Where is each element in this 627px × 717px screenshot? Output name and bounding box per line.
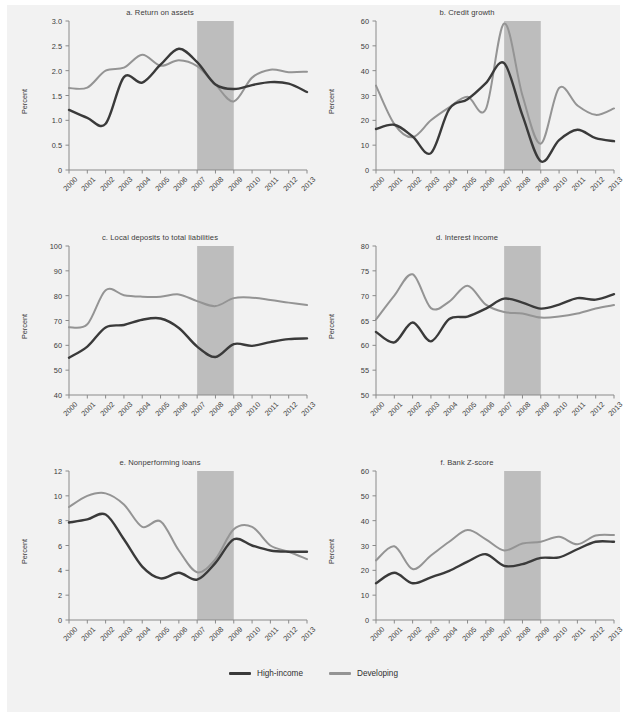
axis-spines-c: [69, 246, 307, 395]
series-line-developing-d: [376, 274, 614, 319]
y-tick-label: 60: [314, 341, 369, 350]
series-line-developing-a: [69, 55, 307, 102]
y-tick-label: 10: [314, 141, 369, 150]
y-tick-label: 0: [314, 166, 369, 175]
y-tick-label: 2.5: [7, 41, 62, 50]
series-line-high-income-c: [69, 318, 307, 358]
y-tick-label: 100: [7, 242, 62, 251]
y-tick-label: 12: [7, 467, 62, 476]
y-tick-label: 2.0: [7, 66, 62, 75]
y-tick-label: 50: [314, 491, 369, 500]
y-tick-label: 60: [314, 467, 369, 476]
chart-panel-a: a. Return on assetsPercent00.51.01.52.02…: [7, 5, 313, 223]
series-line-high-income-a: [69, 49, 307, 126]
y-tick-label: 4: [7, 566, 62, 575]
legend-swatch-icon: [229, 672, 251, 675]
y-tick-label: 1.5: [7, 91, 62, 100]
y-tick-label: 90: [7, 266, 62, 275]
legend-swatch-icon: [329, 672, 351, 675]
panel-grid: a. Return on assetsPercent00.51.01.52.02…: [7, 5, 620, 660]
recession-band-a: [197, 21, 234, 170]
y-tick-label: 50: [314, 391, 369, 400]
y-tick-label: 40: [314, 66, 369, 75]
y-tick-label: 20: [314, 116, 369, 125]
y-tick-label: 0: [7, 166, 62, 175]
axis-spines-d: [376, 246, 614, 395]
axis-spines-a: [69, 21, 307, 170]
legend-item-developing: Developing: [329, 669, 398, 678]
series-line-developing-c: [69, 289, 307, 328]
y-tick-label: 40: [314, 516, 369, 525]
figure-page: a. Return on assetsPercent00.51.01.52.02…: [7, 5, 620, 712]
y-tick-label: 65: [314, 316, 369, 325]
y-tick-label: 70: [7, 316, 62, 325]
y-tick-label: 20: [314, 566, 369, 575]
y-tick-label: 0: [7, 616, 62, 625]
figure-legend: High-incomeDeveloping: [7, 669, 620, 678]
series-line-developing-e: [69, 493, 307, 573]
y-tick-label: 8: [7, 516, 62, 525]
y-tick-label: 40: [7, 391, 62, 400]
chart-panel-e: e. Nonperforming loansPercent02468101220…: [7, 455, 313, 673]
chart-panel-f: f. Bank Z-scorePercent010203040506020002…: [314, 455, 620, 673]
y-tick-label: 55: [314, 366, 369, 375]
series-line-developing-b: [376, 23, 614, 143]
legend-label: Developing: [357, 669, 398, 678]
y-tick-label: 60: [314, 17, 369, 26]
legend-item-high-income: High-income: [229, 669, 303, 678]
chart-panel-c: c. Local deposits to total liabilitiesPe…: [7, 230, 313, 448]
y-tick-label: 10: [314, 591, 369, 600]
y-tick-label: 60: [7, 341, 62, 350]
series-line-high-income-f: [376, 541, 614, 583]
y-tick-label: 75: [314, 266, 369, 275]
y-tick-label: 3.0: [7, 17, 62, 26]
y-tick-label: 80: [7, 291, 62, 300]
y-tick-label: 30: [314, 91, 369, 100]
y-tick-label: 6: [7, 541, 62, 550]
y-tick-label: 10: [7, 491, 62, 500]
legend-label: High-income: [257, 669, 303, 678]
recession-band-d: [504, 246, 541, 395]
chart-panel-b: b. Credit growthPercent01020304050602000…: [314, 5, 620, 223]
series-line-high-income-d: [376, 294, 614, 342]
axis-spines-b: [376, 21, 614, 170]
y-tick-label: 50: [314, 41, 369, 50]
y-tick-label: 0.5: [7, 141, 62, 150]
chart-panel-d: d. Interest incomePercent505560657075802…: [314, 230, 620, 448]
y-tick-label: 2: [7, 591, 62, 600]
y-tick-label: 30: [314, 541, 369, 550]
recession-band-f: [504, 471, 541, 620]
y-tick-label: 80: [314, 242, 369, 251]
y-tick-label: 70: [314, 291, 369, 300]
recession-band-c: [197, 246, 234, 395]
y-tick-label: 0: [314, 616, 369, 625]
y-tick-label: 1.0: [7, 116, 62, 125]
series-line-high-income-b: [376, 62, 614, 162]
y-tick-label: 50: [7, 366, 62, 375]
